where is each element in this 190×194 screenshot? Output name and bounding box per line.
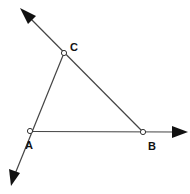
arrow-right-icon (172, 126, 188, 138)
ray-ab-line (30, 132, 176, 133)
label-c: C (70, 41, 78, 53)
point-c (61, 50, 66, 55)
arrow-down-left-icon (9, 169, 20, 186)
label-a: A (25, 139, 33, 151)
ray-ca-line (15, 53, 64, 174)
ray-bc-line (27, 15, 143, 132)
point-a (27, 128, 32, 133)
point-b (140, 129, 145, 134)
triangle-diagram: A B C (0, 0, 190, 194)
label-b: B (148, 140, 156, 152)
